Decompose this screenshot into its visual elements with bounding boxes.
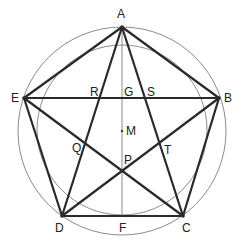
- label-f: F: [119, 222, 126, 234]
- label-t: T: [164, 144, 171, 156]
- label-e: E: [11, 92, 19, 104]
- label-c: C: [182, 222, 191, 234]
- label-g: G: [124, 86, 133, 98]
- point-b: [217, 96, 221, 100]
- point-d: [60, 214, 64, 218]
- diagram-canvas: [0, 0, 241, 247]
- pentagon-diagram: A B C D E F G M P Q R S T: [0, 0, 241, 247]
- point-m: [121, 130, 124, 133]
- point-c: [181, 214, 185, 218]
- label-q: Q: [72, 142, 81, 154]
- diagonal-ad: [62, 27, 122, 216]
- label-b: B: [224, 92, 232, 104]
- label-m: M: [126, 125, 136, 137]
- label-d: D: [55, 222, 64, 234]
- point-a: [120, 25, 124, 29]
- label-a: A: [117, 8, 125, 20]
- diagonal-ec: [24, 98, 183, 216]
- label-p: P: [124, 154, 132, 166]
- label-r: R: [90, 86, 99, 98]
- point-e: [22, 96, 26, 100]
- diagonal-bd: [62, 98, 219, 216]
- label-s: S: [147, 86, 155, 98]
- diagonal-ac: [122, 27, 183, 216]
